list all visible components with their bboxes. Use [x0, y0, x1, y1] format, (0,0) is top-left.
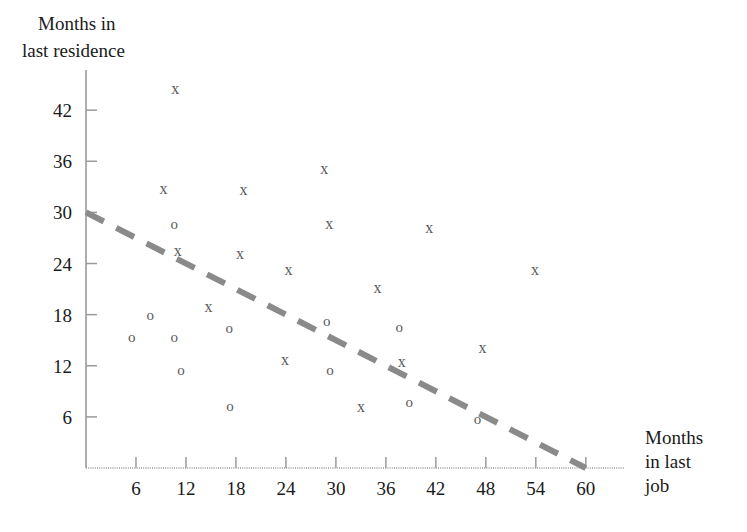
- data-point-x: x: [320, 160, 328, 177]
- chart-page: Months in last residence Months in last …: [0, 0, 747, 532]
- data-point-o: o: [474, 411, 482, 427]
- data-point-x: x: [531, 261, 539, 278]
- trend-line: [86, 212, 586, 468]
- x-tick-label: 48: [476, 478, 495, 499]
- data-point-x: x: [398, 353, 406, 370]
- x-tick-label: 18: [226, 478, 245, 499]
- data-point-x: x: [479, 339, 487, 356]
- data-point-o: o: [326, 362, 334, 378]
- data-point-x: x: [171, 80, 179, 97]
- x-axis-title-line-1: Months: [645, 427, 703, 448]
- ticks-layer: [86, 110, 586, 468]
- data-point-x: x: [239, 181, 247, 198]
- y-tick-label: 6: [63, 407, 73, 428]
- data-point-x: x: [174, 242, 182, 259]
- x-tick-label: 36: [376, 478, 395, 499]
- y-tick-label: 24: [53, 254, 73, 275]
- data-point-o: o: [226, 320, 234, 336]
- data-point-o: o: [323, 313, 331, 329]
- data-point-x: x: [204, 298, 212, 315]
- data-point-o: o: [128, 329, 136, 345]
- y-tick-label: 42: [53, 100, 72, 121]
- x-tick-label: 42: [426, 478, 445, 499]
- data-point-o: o: [177, 362, 185, 378]
- data-points-layer: xxxxxxxxxxxxxxxxoooooooooooo: [128, 80, 539, 426]
- axes-layer: [86, 70, 625, 468]
- x-axis-title-line-3: job: [644, 475, 669, 496]
- scatter-plot: Months in last residence Months in last …: [0, 0, 747, 532]
- y-tick-label: 36: [53, 151, 72, 172]
- data-point-o: o: [171, 216, 179, 232]
- x-tick-label: 60: [576, 478, 595, 499]
- x-tick-label: 30: [326, 478, 345, 499]
- y-tick-label: 12: [53, 356, 72, 377]
- data-point-o: o: [395, 319, 403, 335]
- trend-line-layer: [86, 212, 586, 468]
- data-point-x: x: [281, 351, 289, 368]
- x-tick-label: 54: [526, 478, 546, 499]
- data-point-x: x: [374, 279, 382, 296]
- y-axis-title-line-2: last residence: [22, 40, 125, 61]
- x-axis-title-line-2: in last: [645, 451, 692, 472]
- data-point-x: x: [284, 261, 292, 278]
- data-point-x: x: [357, 398, 365, 415]
- y-tick-label: 18: [53, 305, 72, 326]
- x-tick-label: 24: [276, 478, 296, 499]
- y-tick-label: 30: [53, 202, 72, 223]
- data-point-o: o: [146, 307, 154, 323]
- data-point-x: x: [236, 245, 244, 262]
- data-point-o: o: [226, 398, 234, 414]
- data-point-x: x: [425, 219, 433, 236]
- data-point-x: x: [325, 215, 333, 232]
- x-tick-label: 6: [131, 478, 141, 499]
- y-axis-title-line-1: Months in: [38, 13, 116, 34]
- x-tick-label: 12: [176, 478, 195, 499]
- data-point-x: x: [159, 180, 167, 197]
- data-point-o: o: [171, 329, 179, 345]
- data-point-o: o: [405, 394, 413, 410]
